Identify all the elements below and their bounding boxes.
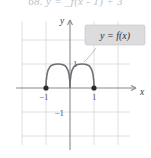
endpoint-dot-right xyxy=(91,85,96,90)
figure-container: x y −1 1 1 −1 y = f(x) xyxy=(0,0,151,158)
y-axis-label: y xyxy=(59,16,65,26)
tick-label-y-minus-one: −1 xyxy=(54,108,64,118)
tick-label-x-plus-one: 1 xyxy=(92,92,97,102)
graph-svg: x y −1 1 1 −1 y = f(x) xyxy=(0,0,151,158)
endpoint-dot-left xyxy=(43,85,48,90)
x-axis-label: x xyxy=(139,87,145,97)
tick-label-x-minus-one: −1 xyxy=(39,92,49,102)
callout-label: y = f(x) xyxy=(99,30,131,42)
